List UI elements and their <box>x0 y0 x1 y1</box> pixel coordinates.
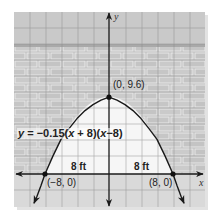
parabola-graph <box>0 0 219 214</box>
x-axis-label: x <box>199 178 203 188</box>
left-span-label: 8 ft <box>71 162 86 172</box>
equation-part: = −0.15( <box>24 127 68 139</box>
equation-part: −8) <box>106 127 122 139</box>
equation-part: + 8)( <box>74 127 100 139</box>
vertex-point <box>106 95 111 100</box>
vertex-label: (0, 9.6) <box>113 80 145 90</box>
right-root-label: (8, 0) <box>149 178 172 188</box>
y-axis-label: y <box>114 12 118 22</box>
left-root-point <box>42 171 47 176</box>
right-root-point <box>170 171 175 176</box>
left-root-label: (−8, 0) <box>47 178 76 188</box>
right-span-label: 8 ft <box>134 162 149 172</box>
equation-label: y = −0.15(x + 8)(x−8) <box>17 128 124 139</box>
